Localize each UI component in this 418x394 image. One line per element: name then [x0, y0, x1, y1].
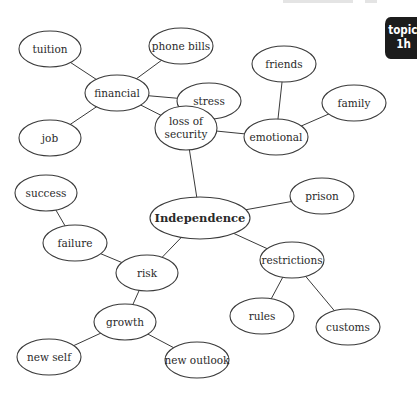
node-label: success	[26, 187, 67, 199]
node-label: prison	[305, 190, 339, 202]
node-growth: growth	[94, 304, 156, 340]
node-risk: risk	[116, 255, 178, 291]
node-label: growth	[106, 316, 144, 328]
node-tuition: tuition	[19, 31, 81, 67]
node-label: Independence	[155, 211, 246, 225]
node-label: new self	[27, 351, 72, 363]
node-label: tuition	[32, 43, 67, 55]
node-label: failure	[58, 237, 93, 249]
node-emotional: emotional	[244, 119, 308, 155]
node-customs: customs	[316, 309, 380, 345]
node-label: job	[40, 132, 59, 144]
node-restrictions: restrictions	[260, 242, 324, 278]
node-label: rules	[249, 310, 276, 322]
node-rules: rules	[230, 298, 294, 334]
mind-map-diagram: tuitionphone billsfinancialstressjobloss…	[0, 0, 418, 394]
node-new-outlook: new outlook	[165, 342, 231, 378]
node-label: stress	[193, 95, 225, 107]
node-label: friends	[265, 58, 302, 70]
node-label: financial	[94, 87, 140, 99]
node-prison: prison	[290, 178, 354, 214]
node-new-self: new self	[17, 339, 81, 375]
node-label: risk	[137, 267, 158, 279]
node-financial: financial	[85, 75, 149, 111]
node-label: customs	[326, 321, 370, 333]
node-loss-of-security: loss ofsecurity	[155, 106, 217, 150]
node-label: emotional	[250, 131, 303, 143]
node-friends: friends	[252, 46, 316, 82]
node-label: new outlook	[165, 354, 231, 366]
node-label: restrictions	[261, 254, 322, 266]
nodes-layer: tuitionphone billsfinancialstressjobloss…	[15, 28, 386, 378]
page: topic 1h tuitionphone billsfinancialstre…	[0, 0, 418, 394]
node-success: success	[15, 175, 77, 211]
node-failure: failure	[43, 225, 107, 261]
node-label: loss of	[169, 115, 204, 127]
node-label: family	[338, 97, 371, 109]
node-label: security	[165, 128, 208, 140]
node-label: phone bills	[152, 40, 210, 52]
node-family: family	[322, 85, 386, 121]
node-phone-bills: phone bills	[149, 28, 213, 64]
node-job: job	[19, 120, 81, 156]
node-independence: Independence	[150, 197, 250, 239]
